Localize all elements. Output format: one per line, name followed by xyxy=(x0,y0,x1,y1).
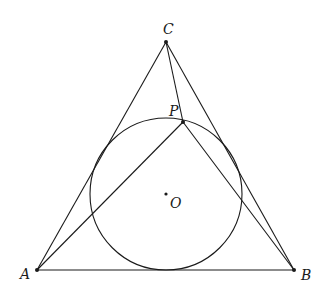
geometry-diagram: A B C P O xyxy=(0,0,328,302)
diagram-canvas: A B C P O xyxy=(0,0,328,302)
label-p: P xyxy=(168,103,179,119)
point-p xyxy=(181,120,185,124)
segment-pb xyxy=(183,122,294,270)
label-b: B xyxy=(300,267,311,283)
segment-ca xyxy=(37,42,166,270)
point-c xyxy=(164,40,168,44)
label-o: O xyxy=(170,195,182,211)
label-c: C xyxy=(163,21,174,37)
label-a: A xyxy=(18,266,30,282)
point-a xyxy=(35,268,39,272)
segments xyxy=(37,42,294,270)
segment-ap xyxy=(37,122,183,270)
point-o xyxy=(164,192,167,195)
point-b xyxy=(292,268,296,272)
points xyxy=(35,40,296,272)
